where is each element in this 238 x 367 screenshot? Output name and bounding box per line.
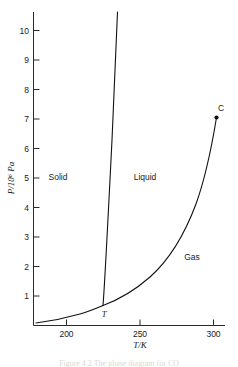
phase-diagram-figure: 10 9 8 7 6 5 4 3 2 1 200 250 300 T/K P/1… xyxy=(0,0,238,367)
sublimation-curve xyxy=(36,306,103,324)
triple-point-label: T xyxy=(102,309,108,319)
y-axis-ticks xyxy=(34,31,40,297)
x-tick-label-250: 250 xyxy=(133,329,147,339)
y-tick-label-3: 3 xyxy=(24,232,29,242)
x-axis-ticks xyxy=(67,320,214,326)
x-tick-label-300: 300 xyxy=(206,329,220,339)
phase-boundary-curves xyxy=(36,12,219,323)
region-label-gas: Gas xyxy=(184,252,200,262)
y-axis-tick-labels: 10 9 8 7 6 5 4 3 2 1 xyxy=(20,26,30,302)
fusion-curve xyxy=(103,12,118,306)
y-tick-label-8: 8 xyxy=(24,85,29,95)
critical-point-label: C xyxy=(218,103,224,113)
phase-diagram-plot: 10 9 8 7 6 5 4 3 2 1 200 250 300 T/K P/1… xyxy=(0,0,238,367)
x-axis-title: T/K xyxy=(133,340,148,350)
y-tick-label-1: 1 xyxy=(24,291,29,301)
y-tick-label-5: 5 xyxy=(24,173,29,183)
y-tick-label-9: 9 xyxy=(24,55,29,65)
y-tick-label-10: 10 xyxy=(20,26,30,36)
x-axis-tick-labels: 200 250 300 xyxy=(59,329,220,339)
region-label-solid: Solid xyxy=(49,172,68,182)
y-tick-label-4: 4 xyxy=(24,203,29,213)
critical-point-dot xyxy=(214,115,218,119)
y-tick-label-2: 2 xyxy=(24,262,29,272)
x-tick-label-200: 200 xyxy=(59,329,73,339)
y-axis-title: P/10⁶ Pa xyxy=(6,161,16,195)
y-tick-label-6: 6 xyxy=(24,144,29,154)
y-tick-label-7: 7 xyxy=(24,114,29,124)
vaporization-curve xyxy=(103,118,217,306)
figure-caption: Figure 4.2 The phase diagram for CO xyxy=(0,359,238,367)
region-label-liquid: Liquid xyxy=(134,172,157,182)
axis-group xyxy=(34,12,226,326)
